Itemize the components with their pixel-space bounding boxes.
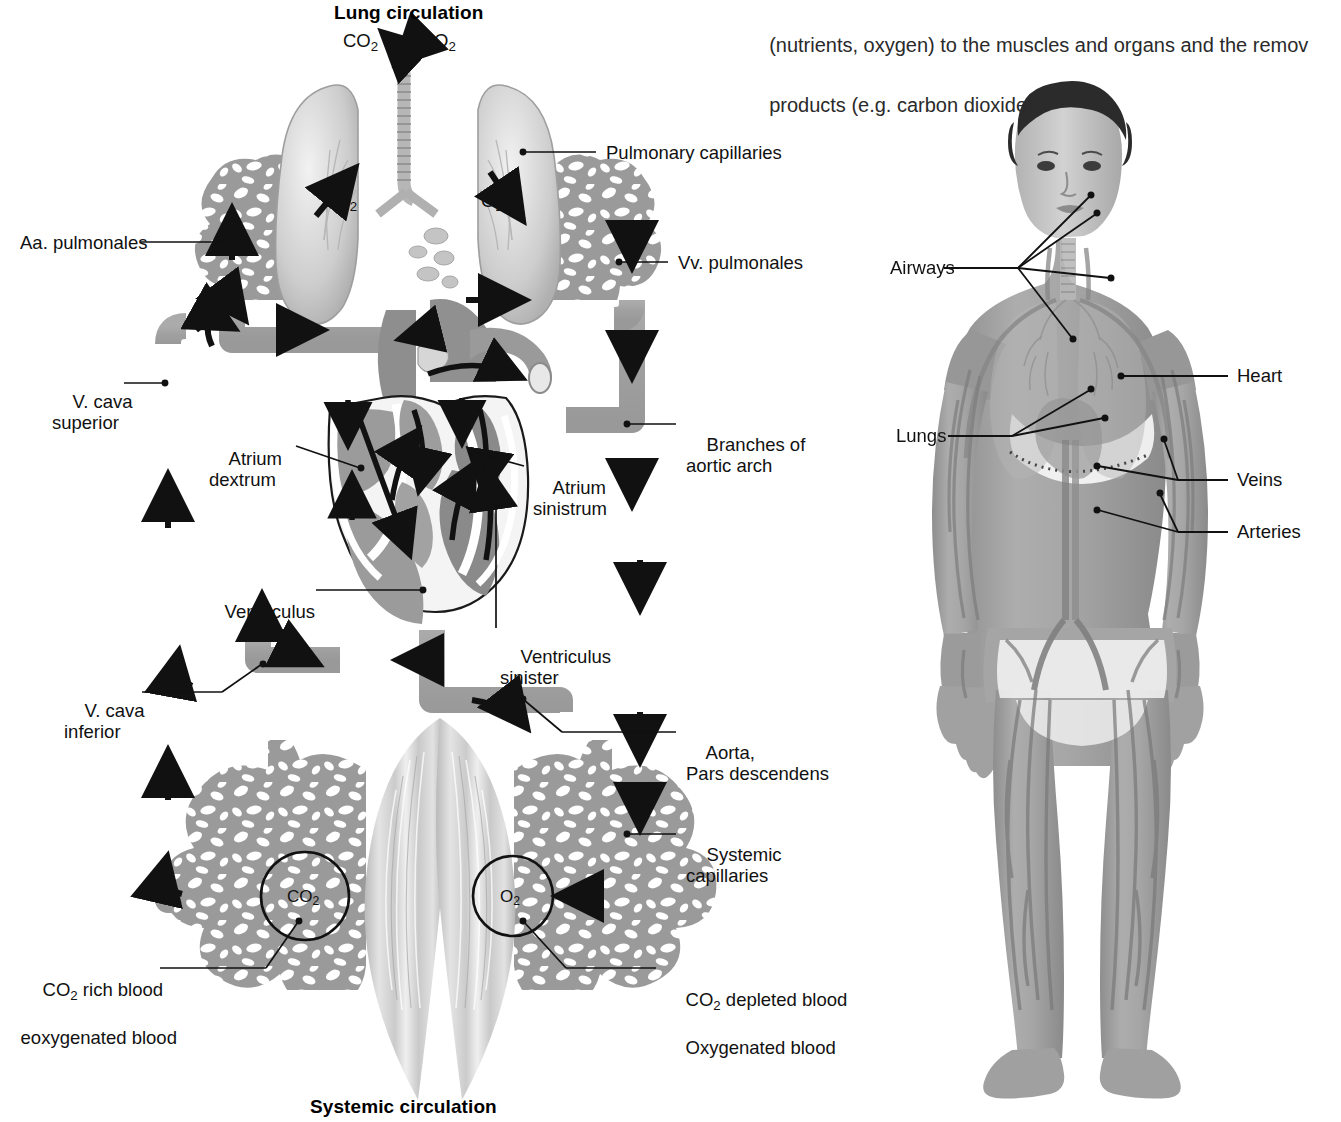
body-paragraph: (nutrients, oxygen) to the muscles and o… bbox=[758, 0, 1308, 120]
photo-label-arteries: Arteries bbox=[1237, 521, 1301, 542]
circulation-schematic: Lung circulation Systemic circulation CO… bbox=[0, 0, 880, 1122]
lungs-illustration bbox=[180, 36, 680, 324]
body-paragraph-line2: products (e.g. carbon dioxide). bbox=[769, 94, 1039, 116]
capillary-co2-marker: CO2 bbox=[287, 886, 319, 912]
systemic-capillaries-illustration bbox=[160, 718, 720, 1100]
label-ventriculus-sinister: Ventriculussinister bbox=[500, 625, 611, 709]
label-co2-rich-blood: CO2 rich blood eoxygenated blood bbox=[22, 958, 177, 1069]
label-vena-cava-inferior: V. cavainferior bbox=[64, 679, 145, 763]
label-vv-pulmonales: Vv. pulmonales bbox=[678, 252, 803, 273]
body-paragraph-line1: (nutrients, oxygen) to the muscles and o… bbox=[769, 34, 1308, 56]
lung-o2-marker: O2 bbox=[481, 190, 503, 217]
label-pulmonary-capillaries: Pulmonary capillaries bbox=[606, 142, 782, 163]
photo-label-airways: Airways bbox=[890, 257, 955, 278]
label-systemic-capillaries: Systemiccapillaries bbox=[686, 823, 782, 907]
photo-label-veins: Veins bbox=[1237, 469, 1282, 490]
circulation-schematic-svg bbox=[0, 0, 880, 1122]
page-title-lung-circulation: Lung circulation bbox=[334, 2, 483, 24]
muscle-left-head bbox=[365, 718, 444, 1100]
label-atrium-dextrum: Atriumdextrum bbox=[209, 427, 282, 511]
photo-label-lungs: Lungs bbox=[896, 425, 946, 446]
photo-label-heart: Heart bbox=[1237, 365, 1282, 386]
capillary-o2-marker: O2 bbox=[500, 886, 520, 912]
label-vena-cava-superior: V. cavasuperior bbox=[52, 370, 133, 454]
label-aa-pulmonales: Aa. pulmonales bbox=[20, 232, 148, 253]
body-silhouette bbox=[932, 240, 1208, 1099]
body-photo-svg bbox=[860, 0, 1341, 1122]
trachea-icon bbox=[378, 70, 458, 288]
body-circulatory-photo: Airways Lungs Heart Veins Arteries bbox=[860, 0, 1341, 1122]
breathing-arrows bbox=[386, 36, 424, 62]
lung-co2-marker: CO2 bbox=[322, 190, 357, 217]
label-aorta-pars-descendens: Aorta,Pars descendens bbox=[686, 721, 829, 805]
label-atrium-sinistrum: Atriumsinistrum bbox=[533, 456, 607, 540]
page-title-systemic-circulation: Systemic circulation bbox=[310, 1096, 497, 1118]
label-branches-aortic-arch: Branches ofaortic arch bbox=[686, 413, 805, 497]
label-co2-depleted-blood: CO2 depleted blood Oxygenated blood bbox=[665, 968, 847, 1079]
label-ventriculus-dexter: Ventriculusdexter bbox=[204, 580, 315, 664]
top-o2-marker: O2 bbox=[434, 30, 456, 57]
top-co2-marker: CO2 bbox=[343, 30, 378, 57]
